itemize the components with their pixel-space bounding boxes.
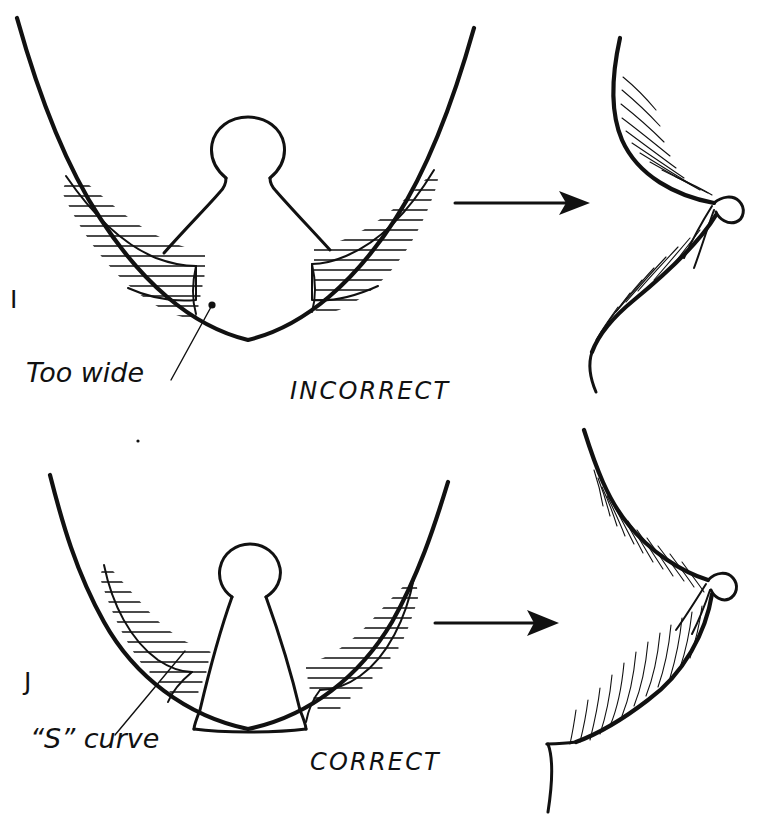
paper-background xyxy=(0,0,770,823)
leader-dot-too-wide xyxy=(208,301,215,308)
figure-root: I J Too wide “S” curve INCORRECT CORRECT xyxy=(0,0,770,823)
annotation-too-wide: Too wide xyxy=(26,357,144,388)
panel-letter-j: J xyxy=(22,667,31,696)
annotation-s-curve: “S” curve xyxy=(30,723,159,754)
ink-speck xyxy=(136,439,139,442)
caption-correct: CORRECT xyxy=(310,748,441,776)
panel-letter-i: I xyxy=(10,285,17,314)
caption-incorrect: INCORRECT xyxy=(290,377,451,405)
surgical-marking-diagram: I J Too wide “S” curve INCORRECT CORRECT xyxy=(0,0,770,823)
